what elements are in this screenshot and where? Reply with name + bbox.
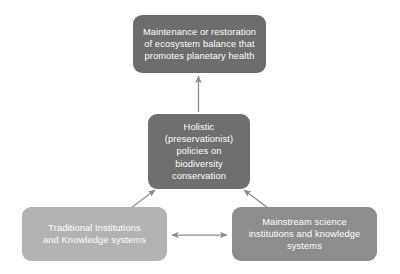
node-policy-label: Holistic (preservationist) policies on b… (165, 121, 233, 182)
diagram-canvas: Maintenance or restoration of ecosystem … (0, 0, 400, 274)
connector-mainstream-to-policy (244, 190, 268, 208)
connector-traditional-to-policy (131, 190, 155, 208)
node-outcome: Maintenance or restoration of ecosystem … (133, 15, 266, 73)
node-policy: Holistic (preservationist) policies on b… (148, 114, 250, 189)
node-outcome-label: Maintenance or restoration of ecosystem … (143, 26, 256, 63)
node-mainstream-science-label: Mainstream science institutions and know… (249, 216, 361, 253)
node-mainstream-science: Mainstream science institutions and know… (232, 207, 377, 261)
node-traditional-knowledge-label: Traditional Institutions and Knowledge s… (43, 222, 146, 247)
node-traditional-knowledge: Traditional Institutions and Knowledge s… (22, 207, 167, 261)
